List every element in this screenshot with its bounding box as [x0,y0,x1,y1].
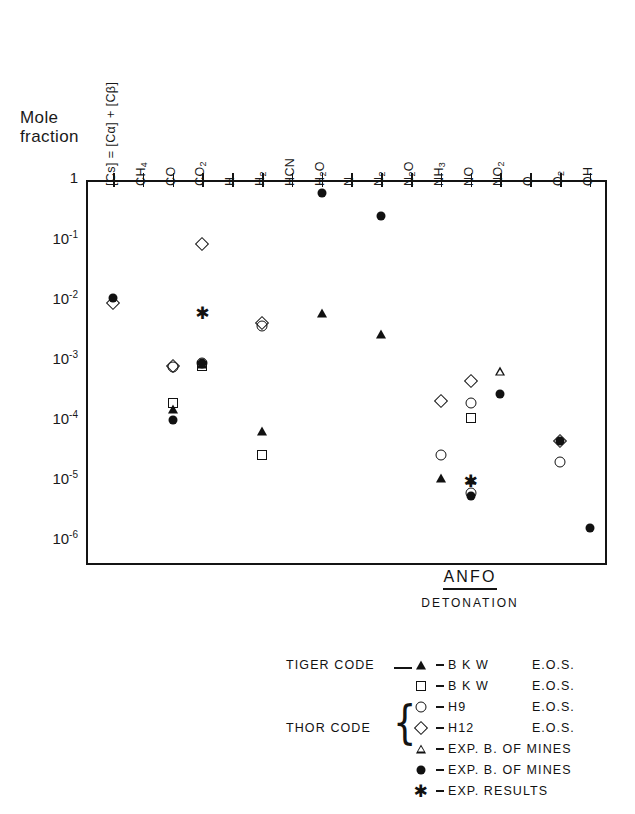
legend-dash-5 [436,769,444,771]
legend-dash-0 [436,664,444,666]
legend-group-tiger: TIGER CODE [286,658,375,672]
x-tick-16 [590,173,592,187]
x-tick-3 [202,173,204,187]
legend-dash-4 [436,748,444,750]
legend-glyph-open-circle-icon [416,702,427,713]
y-tick-label-0: 1 [20,169,78,186]
legend-symbol-open-diamond-icon [412,718,434,739]
legend-eos-1: E.O.S. [532,679,575,693]
x-tick-7 [322,173,324,187]
legend-label-3: H12 [448,721,474,735]
legend-eos-3: E.O.S. [532,721,575,735]
legend-label-0: B K W [448,658,489,672]
anfo-annotation: ANFO DETONATION [385,568,555,610]
legend-tiger-leader [394,667,412,669]
y-tick-label-4: 10-4 [20,409,78,427]
x-tick-10 [411,173,413,187]
x-tick-5 [262,173,264,187]
x-tick-11 [441,173,443,187]
x-tick-4 [232,173,234,187]
legend-label-5: EXP. B. OF MINES [448,763,572,777]
y-axis-title: Mole fraction [20,108,79,146]
legend-symbol-open-triangle-icon [412,739,434,760]
x-tick-14 [530,173,532,187]
legend-symbol-filled-circle-icon [412,760,434,781]
y-tick-label-1: 10-1 [20,229,78,247]
legend-symbol-open-square-icon [412,676,434,697]
legend-symbol-open-circle-icon [412,697,434,718]
legend-symbol-asterisk-icon: ✱ [412,781,434,802]
x-tick-2 [173,173,175,187]
legend-eos-2: E.O.S. [532,700,575,714]
legend-label-1: B K W [448,679,489,693]
y-tick-label-2: 10-2 [20,289,78,307]
legend-glyph-filled-triangle-icon [416,661,426,670]
data-markers-layer: ✱✱ [0,0,635,9]
x-species-label-0: [Cs] = [Cα] + [Cβ] [104,82,118,186]
legend-symbol-filled-triangle-icon [412,655,434,676]
legend: TIGER CODE THOR CODE { B K WE.O.S.B K WE… [286,655,616,805]
legend-eos-0: E.O.S. [532,658,575,672]
x-tick-1 [143,173,145,187]
plot-frame [86,180,607,565]
y-tick-label-5: 10-5 [20,469,78,487]
legend-glyph-asterisk-icon: ✱ [413,786,428,796]
legend-glyph-open-triangle-icon [416,745,426,754]
x-tick-9 [381,173,383,187]
legend-glyph-open-square-icon [416,681,426,691]
legend-label-2: H9 [448,700,466,714]
legend-dash-2 [436,706,444,708]
legend-label-4: EXP. B. OF MINES [448,742,572,756]
y-tick-label-6: 10-6 [20,529,78,547]
anfo-subtitle: DETONATION [385,596,555,610]
x-tick-15 [560,173,562,187]
y-tick-label-3: 10-3 [20,349,78,367]
legend-dash-3 [436,727,444,729]
legend-glyph-filled-circle-icon [417,766,426,775]
x-tick-12 [471,173,473,187]
chart-figure: Mole fraction 110-110-210-310-410-510-6 … [0,0,635,814]
legend-dash-1 [436,685,444,687]
legend-glyph-open-diamond-icon [414,721,428,735]
anfo-title: ANFO [443,568,496,590]
x-tick-13 [500,173,502,187]
x-tick-8 [351,173,353,187]
x-tick-6 [292,173,294,187]
legend-dash-6 [436,790,444,792]
x-tick-0 [113,173,115,187]
legend-label-6: EXP. RESULTS [448,784,548,798]
legend-group-thor: THOR CODE [286,721,371,735]
